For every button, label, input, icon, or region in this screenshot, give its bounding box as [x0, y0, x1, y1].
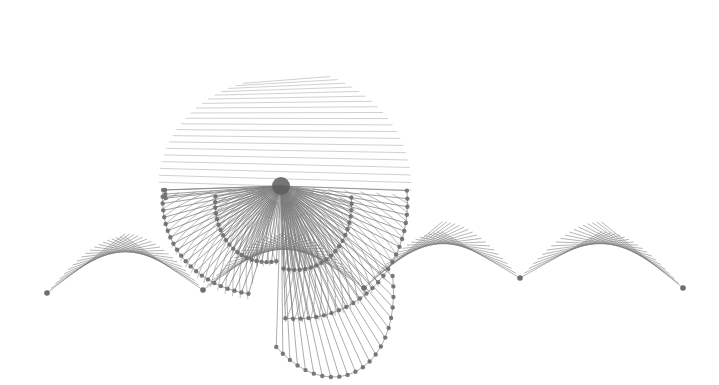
- vertex-node: [224, 238, 228, 242]
- vertex-node: [329, 311, 333, 315]
- vertex-node: [168, 235, 172, 239]
- vertex-node: [333, 249, 337, 253]
- vertex-node: [340, 239, 344, 243]
- vertex-node: [227, 242, 231, 246]
- vertex-node: [216, 222, 220, 226]
- vertex-node: [221, 233, 225, 237]
- vertex-node: [329, 375, 333, 379]
- vertex-node: [287, 267, 291, 271]
- vertex-node: [281, 352, 285, 356]
- vertex-node: [200, 287, 206, 293]
- vertex-node: [680, 285, 686, 291]
- vertex-node: [400, 237, 404, 241]
- vertex-node: [200, 273, 204, 277]
- vertex-node: [163, 196, 167, 200]
- vertex-node: [324, 257, 328, 261]
- vertex-node: [322, 313, 326, 317]
- vertex-node: [214, 211, 218, 215]
- vertex-node: [244, 256, 248, 260]
- vertex-node: [349, 195, 353, 199]
- vertex-node: [343, 233, 347, 237]
- vertex-node: [162, 215, 166, 219]
- figure-background: [0, 0, 719, 385]
- vertex-node: [312, 371, 316, 375]
- vertex-node: [320, 374, 324, 378]
- vertex-node: [239, 290, 243, 294]
- vertex-node: [353, 370, 357, 374]
- vertex-node: [381, 274, 385, 278]
- vertex-node: [175, 248, 179, 252]
- vertex-node: [298, 267, 302, 271]
- vertex-node: [347, 221, 351, 225]
- vertex-node: [44, 290, 50, 296]
- vertex-node: [283, 316, 287, 320]
- vertex-node: [288, 358, 292, 362]
- vertex-node: [281, 266, 285, 270]
- vertex-node: [390, 274, 394, 278]
- vertex-node: [319, 261, 323, 265]
- vertex-node: [314, 315, 318, 319]
- vertex-node: [364, 291, 368, 295]
- vertex-node: [164, 222, 168, 226]
- vertex-node: [240, 253, 244, 257]
- vertex-node: [163, 192, 167, 196]
- vertex-node: [370, 286, 374, 290]
- vertex-node: [194, 269, 198, 273]
- vertex-node: [349, 202, 353, 206]
- vertex-node: [386, 326, 390, 330]
- vertex-node: [379, 344, 383, 348]
- vertex-node: [274, 345, 278, 349]
- vertex-node: [349, 208, 353, 212]
- vertex-node: [292, 268, 296, 272]
- vertex-node: [329, 253, 333, 257]
- hub-node: [272, 177, 290, 195]
- vertex-node: [189, 264, 193, 268]
- vertex-node: [254, 259, 258, 263]
- vertex-node: [351, 301, 355, 305]
- vertex-node: [213, 194, 217, 198]
- vertex-node: [291, 316, 295, 320]
- vertex-node: [348, 214, 352, 218]
- vertex-node: [361, 285, 367, 291]
- vertex-node: [391, 305, 395, 309]
- vertex-node: [274, 259, 278, 263]
- vertex-node: [295, 363, 299, 367]
- vertex-node: [337, 244, 341, 248]
- vertex-node: [213, 200, 217, 204]
- chord-line: [191, 113, 383, 114]
- vertex-node: [303, 267, 307, 271]
- vertex-node: [402, 229, 406, 233]
- vertex-node: [314, 263, 318, 267]
- vertex-node: [397, 245, 401, 249]
- vertex-node: [337, 374, 341, 378]
- vertex-node: [361, 365, 365, 369]
- vertex-node: [225, 286, 229, 290]
- vertex-node: [390, 260, 394, 264]
- vertex-node: [391, 295, 395, 299]
- vertex-node: [309, 265, 313, 269]
- vertex-node: [345, 227, 349, 231]
- vertex-node: [405, 213, 409, 217]
- vertex-node: [212, 281, 216, 285]
- vertex-node: [405, 188, 409, 192]
- vertex-node: [259, 260, 263, 264]
- vertex-node: [235, 250, 239, 254]
- vertex-node: [404, 221, 408, 225]
- vertex-node: [206, 277, 210, 281]
- vertex-node: [373, 352, 377, 356]
- string-art-figure: String art envelope figure: [0, 0, 719, 385]
- vertex-node: [386, 267, 390, 271]
- vertex-node: [306, 316, 310, 320]
- vertex-node: [166, 229, 170, 233]
- vertex-node: [345, 373, 349, 377]
- vertex-node: [367, 359, 371, 363]
- vertex-node: [218, 228, 222, 232]
- vertex-node: [303, 368, 307, 372]
- vertex-node: [213, 206, 217, 210]
- vertex-node: [264, 260, 268, 264]
- vertex-node: [171, 241, 175, 245]
- vertex-node: [405, 196, 409, 200]
- vertex-node: [299, 316, 303, 320]
- vertex-node: [344, 305, 348, 309]
- vertex-node: [376, 280, 380, 284]
